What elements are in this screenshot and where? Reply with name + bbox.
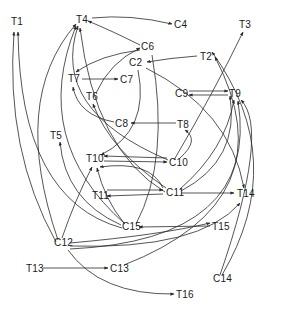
- node-t4: T4: [76, 14, 88, 25]
- node-c14: C14: [213, 273, 232, 284]
- node-t14: T14: [237, 188, 255, 199]
- edge-t6-c6: [96, 48, 140, 93]
- node-c6: C6: [141, 41, 154, 52]
- node-c12: C12: [54, 237, 73, 248]
- node-t3: T3: [239, 19, 251, 30]
- node-t10: T10: [86, 153, 104, 164]
- node-c15: C15: [122, 221, 141, 232]
- node-t16: T16: [176, 289, 194, 300]
- edge-c10-t8: [180, 130, 191, 158]
- edge-t15-c15: [139, 226, 210, 227]
- node-c7: C7: [120, 74, 133, 85]
- node-t9: T9: [229, 88, 241, 99]
- edge-c11-t2: [181, 96, 231, 191]
- node-t11: T11: [92, 190, 109, 201]
- edge-c10-t10: [104, 156, 167, 158]
- edge-t2-c2: [147, 56, 197, 62]
- edge-c11-t11: [107, 194, 163, 196]
- edge-c14-t2: [212, 52, 254, 275]
- node-t1: T1: [11, 16, 23, 27]
- edge-t10-c10: [104, 161, 167, 162]
- edge-c6-t4: [88, 21, 140, 45]
- node-t8: T8: [177, 119, 189, 130]
- node-c2: C2: [129, 57, 142, 68]
- directed-graph-diagram: T1 T4 C4 T3 C6 C2 T2 T7 C7 T6 C9 T9 C8 T…: [0, 0, 296, 329]
- edge-c2-t14: [146, 68, 244, 188]
- node-t7: T7: [68, 73, 80, 84]
- node-t2: T2: [200, 51, 212, 62]
- node-c10: C10: [169, 157, 188, 168]
- node-t13: T13: [26, 263, 44, 274]
- node-t15: T15: [212, 221, 230, 232]
- node-c9: C9: [175, 88, 188, 99]
- node-c8: C8: [115, 118, 128, 129]
- node-t5: T5: [50, 130, 62, 141]
- node-c13: C13: [110, 263, 129, 274]
- node-c4: C4: [174, 19, 187, 30]
- node-c11: C11: [166, 187, 184, 198]
- edge-t4-c4: [92, 17, 172, 24]
- node-t6: T6: [86, 91, 98, 102]
- edge-c11-t6: [93, 104, 166, 188]
